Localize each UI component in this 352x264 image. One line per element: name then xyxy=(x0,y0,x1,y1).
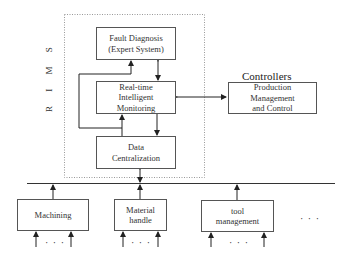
rims-architecture-diagram: R I M S Fault Diagnosis (Expert System) … xyxy=(0,0,352,264)
production-management-box: Production Management and Control xyxy=(228,82,317,114)
tool-ellipsis: · · · xyxy=(229,237,249,248)
controllers-label: Controllers xyxy=(242,70,292,82)
rims-label: R I M S xyxy=(44,41,54,112)
realtime-monitoring-box: Real-time Intelligent Monitoring xyxy=(96,81,176,114)
fault-diagnosis-box: Fault Diagnosis (Expert System) xyxy=(96,27,176,60)
material-handle-box: Material handle xyxy=(114,199,167,231)
machining-ellipsis: · · · xyxy=(45,237,65,248)
machining-box: Machining xyxy=(17,199,89,231)
tool-management-box: tool management xyxy=(201,200,274,232)
material-ellipsis: · · · xyxy=(131,237,151,248)
data-centralization-box: Data Centralization xyxy=(96,136,176,169)
more-modules-ellipsis: · · · xyxy=(300,213,320,224)
